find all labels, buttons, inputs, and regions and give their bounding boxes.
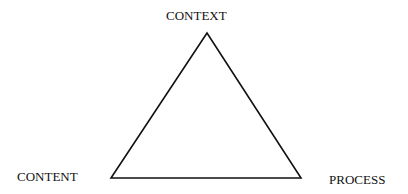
triangle	[111, 33, 301, 178]
vertex-label-content: CONTENT	[17, 169, 78, 185]
vertex-label-context: CONTEXT	[166, 8, 227, 24]
vertex-label-process: PROCESS	[329, 172, 385, 188]
triangle-diagram	[0, 0, 408, 194]
